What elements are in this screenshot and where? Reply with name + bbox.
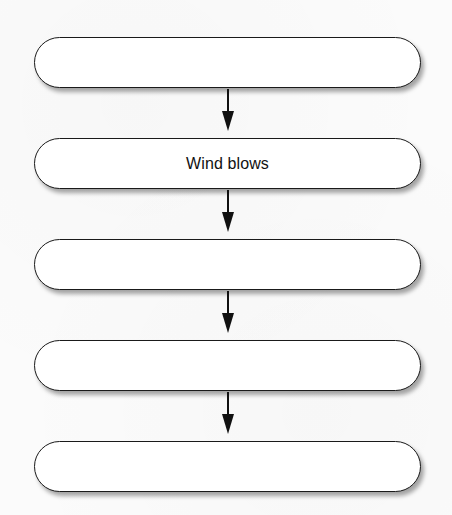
flowchart-step-1	[34, 37, 421, 88]
arrow-down-icon	[222, 392, 234, 434]
step-label: Wind blows	[186, 155, 269, 173]
flowchart-step-5	[34, 441, 421, 492]
flowchart-step-3	[34, 239, 421, 290]
arrow-down-icon	[222, 190, 234, 232]
arrow-down-icon	[222, 89, 234, 131]
flowchart-step-4	[34, 340, 421, 391]
flowchart-step-2: Wind blows	[34, 138, 421, 189]
arrow-down-icon	[222, 291, 234, 333]
flowchart-canvas: Wind blows	[0, 0, 452, 515]
